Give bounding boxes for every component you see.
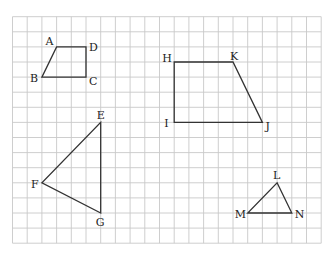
vertex-label-K: K bbox=[230, 50, 239, 63]
vertex-label-B: B bbox=[30, 72, 38, 85]
vertex-label-M: M bbox=[235, 208, 246, 221]
triangle-LMN: LNM bbox=[235, 169, 305, 221]
grid-diagram: ADCBHKJIEGFLNM bbox=[0, 0, 334, 257]
vertex-label-G: G bbox=[96, 216, 105, 229]
vertex-label-E: E bbox=[97, 109, 105, 122]
vertex-label-D: D bbox=[89, 41, 98, 54]
vertex-label-H: H bbox=[162, 52, 172, 65]
quadrilateral-HKJI: HKJI bbox=[162, 50, 270, 133]
vertex-label-A: A bbox=[45, 35, 55, 48]
quadrilateral-ABCD: ADCB bbox=[30, 35, 98, 88]
vertex-label-J: J bbox=[264, 120, 269, 133]
vertex-label-N: N bbox=[295, 208, 305, 221]
vertex-label-C: C bbox=[89, 75, 97, 88]
vertex-label-L: L bbox=[273, 169, 281, 182]
vertex-label-F: F bbox=[31, 178, 39, 191]
vertex-label-I: I bbox=[164, 117, 168, 130]
